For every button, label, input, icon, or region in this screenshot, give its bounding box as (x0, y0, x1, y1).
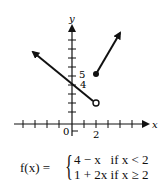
x-axis-label: x (152, 119, 158, 130)
brace: { (65, 150, 73, 180)
tick-label-2: 2 (93, 129, 99, 140)
tick-label-4: 4 (80, 79, 86, 90)
x-axis (14, 120, 148, 128)
formula-case-1: 4 − x if x < 2 (74, 152, 149, 168)
piecewise-formula: f(x) = { 4 − x if x < 2 1 + 2x if x ≥ 2 (20, 152, 165, 182)
formula-case-2: 1 + 2x if x ≥ 2 (74, 167, 148, 183)
filled-endpoint (93, 71, 99, 77)
tick-label-origin: 0 (63, 126, 69, 137)
line-1-plus-2x (93, 33, 120, 77)
y-axis-label: y (68, 13, 75, 24)
open-endpoint (93, 100, 99, 106)
formula-lhs: f(x) = (20, 160, 50, 176)
line-4-minus-x (33, 52, 99, 106)
